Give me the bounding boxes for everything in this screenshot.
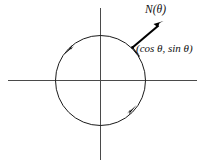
unit-circle-figure: N(θ) (cos θ, sin θ) xyxy=(0,0,203,166)
normal-vector-label: N(θ) xyxy=(145,4,166,16)
point-coordinates-label: (cos θ, sin θ) xyxy=(136,43,193,54)
circle-point-marker xyxy=(131,46,134,49)
figure-canvas xyxy=(0,0,203,166)
orientation-arrowhead-upper-left xyxy=(65,45,75,55)
